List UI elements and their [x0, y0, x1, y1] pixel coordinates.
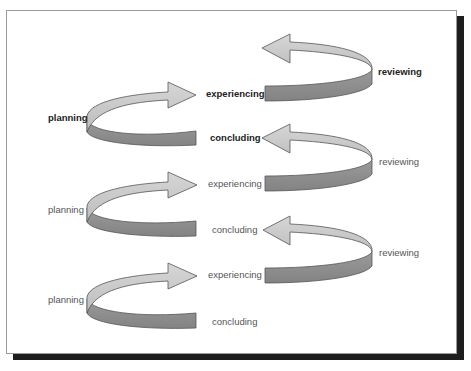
- cycle-3-reviewing-label: reviewing: [379, 248, 419, 258]
- cycle-3-concluding-label: concluding: [212, 317, 257, 327]
- cycle-2-planning-label: planning: [48, 205, 84, 215]
- cycle-3-experiencing-label: experiencing: [208, 270, 262, 280]
- cycle-1-forward-arrow: [87, 82, 196, 132]
- cycle-1-return-arrow: [262, 34, 372, 70]
- cycle-3-return-arrow: [263, 216, 372, 252]
- cycle-2-experiencing-label: experiencing: [208, 179, 262, 189]
- cycle-3-forward-arrow: [87, 263, 197, 313]
- cycle-3-review-band: [265, 252, 372, 283]
- cycle-1-concluding-label: concluding: [210, 133, 261, 143]
- cycle-2-return-arrow: [262, 124, 372, 160]
- cycle-1-reviewing-label: reviewing: [378, 67, 422, 77]
- cycle-2-lower-band: [87, 208, 196, 236]
- cycle-3-planning-label: planning: [48, 295, 84, 305]
- cycle-1-experiencing-label: experiencing: [206, 89, 265, 99]
- cycle-2-forward-arrow: [87, 172, 197, 222]
- cycle-1-planning-label: planning: [48, 113, 88, 123]
- cycle-1-review-band: [265, 70, 372, 101]
- cycle-3-lower-band: [87, 299, 196, 328]
- cycle-2-reviewing-label: reviewing: [379, 157, 419, 167]
- cycle-1-lower-band: [87, 120, 196, 146]
- cycle-2-review-band: [265, 160, 372, 191]
- cycle-2-concluding-label: concluding: [212, 225, 257, 235]
